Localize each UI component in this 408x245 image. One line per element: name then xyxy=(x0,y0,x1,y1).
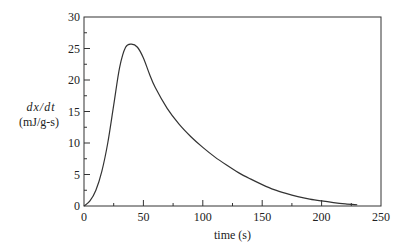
x-tick-label: 250 xyxy=(372,210,390,224)
plot-frame xyxy=(84,17,381,206)
y-tick-label: 20 xyxy=(68,73,80,87)
data-line xyxy=(84,44,357,206)
x-axis-label: time (s) xyxy=(214,228,251,242)
y-tick-label: 15 xyxy=(68,105,80,119)
x-tick-label: 50 xyxy=(137,210,149,224)
x-tick-label: 200 xyxy=(313,210,331,224)
y-tick-label: 10 xyxy=(68,136,80,150)
y-axis-label-units: (mJ/g-s) xyxy=(19,115,59,129)
y-tick-label: 0 xyxy=(74,199,80,213)
x-tick-label: 150 xyxy=(253,210,271,224)
y-tick-label: 5 xyxy=(74,168,80,182)
y-tick-label: 30 xyxy=(68,10,80,24)
axis-tick-labels: 050100150200250051015202530 xyxy=(68,10,390,224)
y-tick-label: 25 xyxy=(68,42,80,56)
chart: 050100150200250051015202530 time (s) dx/… xyxy=(0,0,408,245)
axis-ticks xyxy=(84,33,351,206)
y-axis-label-symbol: dx/dt xyxy=(27,100,56,114)
x-tick-label: 0 xyxy=(81,210,87,224)
x-tick-label: 100 xyxy=(194,210,212,224)
